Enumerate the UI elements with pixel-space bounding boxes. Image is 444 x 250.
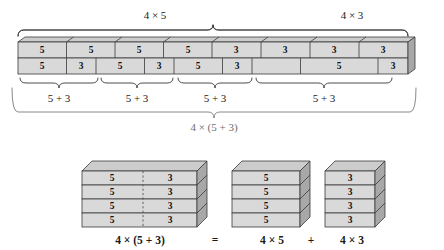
label-four-times-three-top: 4 × 3: [341, 9, 364, 21]
label-group-0: 5 + 3: [48, 92, 71, 104]
stack-threes-cell-2: 3: [348, 201, 353, 211]
label-group-2: 5 + 3: [204, 92, 227, 104]
cell-top-0: 5: [40, 45, 45, 55]
distributive-property-diagram: 4 × 5 4 × 3 5 5 5 5 3 3 3 3: [0, 0, 444, 250]
stack-threes-cell-3: 3: [348, 215, 353, 225]
cell-bottom-3: 3: [157, 61, 162, 71]
label-four-times-sum: 4 × (5 + 3): [190, 121, 238, 134]
stack-combined-cell-0-1: 3: [168, 173, 173, 183]
stack-fives-cell-0: 5: [264, 173, 269, 183]
brace-group-2: [178, 78, 252, 88]
cell-bottom-1: 3: [79, 61, 84, 71]
stack-fives-cell-3: 5: [264, 215, 269, 225]
brace-top-left-half: [18, 25, 213, 36]
stack-combined-cell-3-0: 5: [110, 215, 115, 225]
label-group-3: 5 + 3: [313, 92, 336, 104]
equation-middle: 4 × 5: [260, 234, 284, 246]
brace-top-right-half: [213, 25, 408, 36]
stack-combined-cell-2-0: 5: [110, 201, 115, 211]
long-bar-side-face: [408, 37, 415, 74]
stack-combined-top-face: [82, 161, 207, 171]
stack-fives: 5 5 5 5: [232, 161, 310, 227]
cell-top-4: 3: [234, 45, 239, 55]
brace-group-3: [256, 78, 392, 88]
stack-combined-cell-3-1: 3: [168, 215, 173, 225]
cell-top-6: 3: [332, 45, 337, 55]
cell-bottom-4: 5: [196, 61, 201, 71]
cell-bottom-7: 3: [391, 61, 396, 71]
stack-fives-top-face: [232, 161, 310, 171]
stack-combined-cell-0-0: 5: [110, 173, 115, 183]
stack-combined-cell-1-1: 3: [168, 187, 173, 197]
stack-threes: 3 3 3 3: [325, 161, 385, 227]
long-bar-top-face: [18, 37, 415, 42]
equation-right: 4 × 3: [340, 234, 364, 246]
stack-threes-cell-1: 3: [348, 187, 353, 197]
label-four-times-five-top: 4 × 5: [144, 9, 167, 21]
label-group-1: 5 + 3: [126, 92, 149, 104]
long-bar-bottom-row: 5 3 5 3 5 3 5 3: [18, 58, 408, 74]
equation-plus: +: [308, 234, 315, 246]
stack-fives-cell-2: 5: [264, 201, 269, 211]
stack-threes-cell-0: 3: [348, 173, 353, 183]
stack-combined: 5 3 5 3 5 3 5 3: [82, 161, 207, 227]
cell-bottom-2: 5: [118, 61, 123, 71]
cell-top-2: 5: [137, 45, 142, 55]
brace-group-0: [20, 78, 98, 88]
stack-combined-row-2: [82, 199, 197, 213]
equation-left: 4 × (5 + 3): [115, 234, 165, 247]
cell-top-1: 5: [89, 45, 94, 55]
equation-equals: =: [212, 234, 219, 246]
stack-fives-cell-1: 5: [264, 187, 269, 197]
cell-top-5: 3: [283, 45, 288, 55]
stack-combined-cell-1-0: 5: [110, 187, 115, 197]
cell-top-7: 3: [381, 45, 386, 55]
stack-combined-row-3: [82, 213, 197, 227]
stack-combined-row-1: [82, 185, 197, 199]
cell-bottom-0: 5: [40, 61, 45, 71]
brace-group-1: [101, 78, 173, 88]
stack-combined-row-0: [82, 171, 197, 185]
stack-combined-cell-2-1: 3: [168, 201, 173, 211]
cell-bottom-6: 5: [337, 61, 342, 71]
cell-bottom-5: 3: [235, 61, 240, 71]
cell-top-3: 5: [186, 45, 191, 55]
